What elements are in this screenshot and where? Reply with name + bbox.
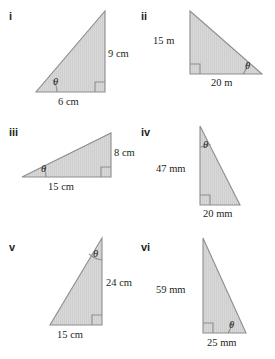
figure-iii-numeral: iii [9, 127, 18, 138]
figure-iii-triangle-shape [22, 133, 111, 177]
figure-iv-theta-label: θ [203, 140, 208, 151]
figure-iv-triangle [200, 126, 240, 205]
figure-iv-vertical-label: 47 mm [156, 164, 185, 175]
figure-ii-triangle-shape [190, 11, 262, 74]
figure-iii-base-label: 15 cm [48, 182, 74, 193]
figure-i-numeral: i [9, 11, 12, 22]
worksheet-figure-sheet: i 9 cm 6 cm θ ii 15 m 20 m θ iii 8 cm 15… [0, 0, 275, 359]
figure-v-base-label: 15 cm [57, 330, 83, 341]
figure-i-theta-label: θ [53, 77, 58, 88]
figure-ii-base-label: 20 m [211, 78, 232, 89]
figure-ii-theta-label: θ [245, 61, 250, 72]
figure-ii-numeral: ii [141, 11, 147, 22]
figure-vi-vertical-label: 59 mm [156, 285, 185, 296]
figure-i-triangle [36, 11, 105, 92]
figure-ii-vertical-label: 15 m [153, 36, 174, 47]
figure-i-vertical-label: 9 cm [108, 49, 129, 60]
figure-vi-numeral: vi [141, 242, 150, 253]
figure-vi-triangle-shape [203, 238, 246, 333]
figure-iii-triangle [22, 133, 111, 177]
figure-iv-triangle-shape [200, 126, 240, 205]
figure-vi-theta-label: θ [229, 320, 234, 331]
figure-vi-base-label: 25 mm [207, 338, 236, 349]
figure-iv-base-label: 20 mm [203, 209, 232, 220]
figure-vi-triangle [203, 238, 246, 333]
triangle-diagrams-canvas [0, 0, 275, 359]
figure-iii-vertical-label: 8 cm [114, 148, 135, 159]
figure-i-triangle-shape [36, 11, 105, 92]
figure-i-base-label: 6 cm [58, 97, 79, 108]
figure-v-theta-label: θ [93, 249, 98, 260]
figure-v-vertical-label: 24 cm [106, 278, 132, 289]
figure-ii-triangle [190, 11, 262, 74]
figure-iv-numeral: iv [141, 127, 150, 138]
figure-v-numeral: v [9, 242, 15, 253]
figure-iii-theta-label: θ [41, 164, 46, 175]
